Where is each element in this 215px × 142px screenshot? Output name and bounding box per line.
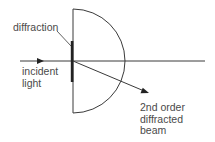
grating-leader-line: [57, 31, 71, 46]
diffracted-arrow-icon: [141, 88, 150, 94]
grating-label: diffraction: [13, 21, 58, 33]
diffracted-beam-line: [73, 61, 143, 91]
incident-arrow-icon: [37, 58, 44, 64]
incident-label-line1: incident: [22, 65, 58, 77]
diffracted-label-line1: 2nd order: [140, 101, 185, 113]
diffracted-label-line3: beam: [140, 124, 167, 136]
diffraction-diagram: diffraction incident light 2nd order dif…: [0, 0, 215, 142]
incident-label-line2: light: [22, 77, 41, 89]
